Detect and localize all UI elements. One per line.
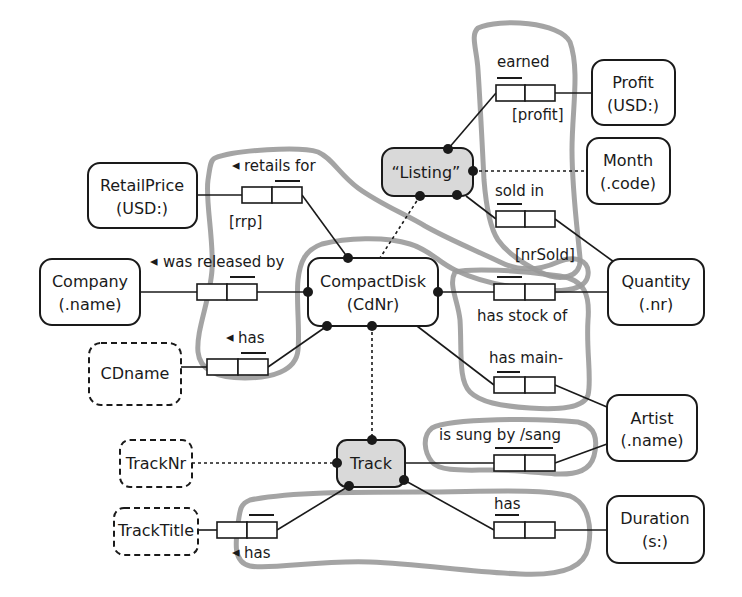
fact-reading: has — [494, 495, 521, 513]
entity-ref: (.name) — [621, 431, 684, 450]
entity-name: Profit — [612, 73, 654, 92]
fact-has-track-title[interactable]: ◂ has — [217, 515, 277, 562]
entity-ref: (s:) — [642, 532, 668, 551]
mandatory-role-dot — [322, 321, 332, 331]
entity-name: Company — [52, 272, 128, 291]
fact-reading: has — [238, 329, 265, 347]
mandatory-role-dot — [443, 144, 453, 154]
fact-has-main-artist[interactable]: has main- — [489, 349, 563, 393]
entity-name: TrackTitle — [117, 521, 194, 540]
fact-reading: has main- — [489, 349, 563, 367]
mandatory-role-dot — [399, 475, 409, 485]
reading-arrow-icon: ◂ — [150, 252, 158, 270]
entity-month[interactable]: Month (.code) — [587, 138, 670, 204]
fact-has-cdname[interactable]: ◂ has — [207, 328, 268, 375]
entity-name: Quantity — [621, 272, 690, 291]
entity-name: Month — [603, 151, 653, 170]
mandatory-role-dot — [367, 321, 377, 331]
mandatory-role-dot — [433, 287, 443, 297]
entity-artist[interactable]: Artist (.name) — [607, 395, 697, 461]
fact-reading: has — [244, 544, 271, 562]
role-name: [profit] — [512, 106, 564, 124]
entity-ref: (USD:) — [116, 199, 168, 218]
entity-name: CDname — [101, 364, 170, 383]
mandatory-role-dot — [468, 166, 478, 176]
entity-ref: (.code) — [600, 174, 656, 193]
entity-name: RetailPrice — [100, 176, 184, 195]
role-name: [nrSold] — [515, 246, 575, 264]
reading-arrow-icon: ◂ — [232, 543, 240, 561]
entity-name: Artist — [631, 409, 674, 428]
entity-name: TrackNr — [125, 454, 187, 473]
entity-listing[interactable]: “Listing” — [382, 148, 473, 196]
mandatory-role-dot — [343, 253, 353, 263]
entity-name: CompactDisk — [320, 272, 427, 291]
fact-reading: sold in — [495, 182, 544, 200]
fact-has-duration[interactable]: has — [494, 495, 555, 538]
entity-track-title[interactable]: TrackTitle — [114, 508, 198, 555]
role-name: [rrp] — [229, 213, 262, 231]
reading-arrow-icon: ◂ — [232, 156, 240, 174]
entity-quantity[interactable]: Quantity (.nr) — [608, 259, 704, 325]
mandatory-role-dot — [344, 481, 354, 491]
fact-earned[interactable]: earned [profit] — [496, 53, 564, 124]
entity-track[interactable]: Track — [337, 440, 405, 487]
mandatory-role-dot — [415, 191, 425, 201]
fact-reading: retails for — [244, 157, 317, 175]
orm-diagram: Profit (USD:) Month (.code) “Listing” Re… — [0, 0, 742, 597]
fact-reading: was released by — [163, 253, 285, 271]
fact-is-sung-by[interactable]: is sung by /sang — [439, 426, 561, 471]
entity-ref: (.nr) — [639, 295, 673, 314]
entity-profit[interactable]: Profit (USD:) — [592, 60, 675, 125]
entity-track-nr[interactable]: TrackNr — [120, 440, 192, 487]
entity-cdname[interactable]: CDname — [89, 343, 181, 405]
entity-company[interactable]: Company (.name) — [40, 259, 140, 325]
entity-duration[interactable]: Duration (s:) — [607, 496, 704, 563]
fact-reading: earned — [497, 53, 550, 71]
entity-name: “Listing” — [392, 163, 461, 182]
mandatory-role-dot — [303, 287, 313, 297]
mandatory-role-dot — [332, 458, 342, 468]
entity-name: Track — [349, 454, 393, 473]
fact-reading: has stock of — [477, 307, 568, 325]
reading-arrow-icon: ◂ — [226, 328, 234, 346]
entity-ref: (USD:) — [607, 96, 659, 115]
fact-retails-for[interactable]: ◂ retails for [rrp] — [229, 156, 317, 231]
entity-ref: (CdNr) — [347, 295, 399, 314]
entity-name: Duration — [620, 509, 690, 528]
fact-reading: is sung by /sang — [439, 426, 561, 444]
entity-ref: (.name) — [59, 295, 122, 314]
entity-retail-price[interactable]: RetailPrice (USD:) — [88, 163, 197, 228]
mandatory-role-dot — [367, 435, 377, 445]
mandatory-role-dot — [452, 190, 462, 200]
entity-compact-disk[interactable]: CompactDisk (CdNr) — [308, 258, 438, 326]
